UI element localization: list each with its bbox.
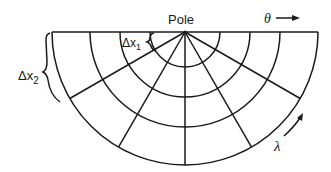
pole-label: Pole [168,12,194,27]
spoke-1 [185,32,300,99]
dx1-label: Δx1 [122,36,141,52]
polar-grid-diagram: Pole θ Δx1 Δx2 λ [0,0,331,172]
spoke-2 [185,32,252,147]
theta-arrow-icon [276,15,300,21]
pole-point [184,31,187,34]
dx2-label: Δx2 [18,68,39,86]
theta-label: θ [264,11,271,26]
radial-spokes [70,32,300,165]
lambda-label: λ [273,138,281,154]
